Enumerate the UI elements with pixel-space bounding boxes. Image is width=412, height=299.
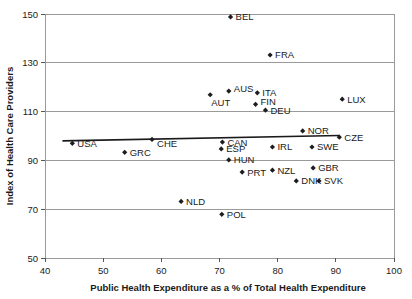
point-marker xyxy=(149,137,154,142)
point-label: CZE xyxy=(344,132,363,143)
data-point: NLD xyxy=(179,196,206,207)
x-tick-label: 100 xyxy=(386,265,402,276)
point-marker xyxy=(219,212,224,217)
x-tick-label: 70 xyxy=(214,265,225,276)
point-label: GRC xyxy=(130,147,151,158)
x-tick-label: 50 xyxy=(98,265,109,276)
y-tick-label: 150 xyxy=(22,9,38,20)
data-points: USAGRCCHENLDAUTESPCANPOLHUNAUSBELPRTFINI… xyxy=(70,11,367,219)
point-marker xyxy=(220,140,225,145)
point-marker xyxy=(311,165,316,170)
y-tick-label: 110 xyxy=(23,106,38,117)
point-marker xyxy=(340,97,345,102)
point-marker xyxy=(268,52,273,57)
point-label: DEU xyxy=(270,105,290,116)
x-tick-label: 60 xyxy=(156,265,167,276)
point-label: GBR xyxy=(318,162,339,173)
point-label: NZL xyxy=(277,165,295,176)
y-tick-label: 130 xyxy=(22,57,38,68)
scatter-chart: 507090110130150 405060708090100 USAGRCCH… xyxy=(0,0,412,299)
point-label: NLD xyxy=(186,196,205,207)
x-axis-tick-labels: 405060708090100 xyxy=(40,265,402,276)
x-tick-label: 90 xyxy=(331,265,342,276)
data-point: USA xyxy=(70,138,98,149)
x-axis-title: Public Health Expenditure as a % of Tota… xyxy=(90,282,365,293)
data-point: IRL xyxy=(270,141,292,152)
point-marker xyxy=(240,170,245,175)
data-point: GBR xyxy=(311,162,339,173)
trend-line xyxy=(62,136,339,141)
y-axis-title: Index of Health Care Providers xyxy=(4,67,15,205)
data-point: NOR xyxy=(300,125,329,136)
point-label: CHE xyxy=(157,138,177,149)
point-marker xyxy=(270,144,275,149)
point-label: IRL xyxy=(277,141,292,152)
data-point: FRA xyxy=(268,49,295,60)
point-label: HUN xyxy=(234,154,255,165)
point-label: PRT xyxy=(247,167,266,178)
point-label: AUT xyxy=(211,97,230,108)
data-point: SWE xyxy=(309,141,338,152)
data-point: LUX xyxy=(340,94,367,105)
data-point: POL xyxy=(219,209,246,220)
point-marker xyxy=(122,150,127,155)
y-axis-tick-labels: 507090110130150 xyxy=(22,9,38,264)
point-label: BEL xyxy=(236,11,254,22)
point-marker xyxy=(226,157,231,162)
point-label: AUS xyxy=(234,83,254,94)
point-label: ITA xyxy=(262,87,277,98)
data-point: AUT xyxy=(208,92,231,108)
point-label: POL xyxy=(227,209,246,220)
point-marker xyxy=(179,199,184,204)
data-point: HUN xyxy=(226,154,254,165)
data-point: CZE xyxy=(337,132,364,143)
data-point: NZL xyxy=(270,165,296,176)
point-marker xyxy=(253,102,258,107)
point-label: NOR xyxy=(308,125,329,136)
point-marker xyxy=(309,144,314,149)
point-marker xyxy=(300,128,305,133)
x-tick-label: 40 xyxy=(40,265,51,276)
point-marker xyxy=(255,90,260,95)
data-point: BEL xyxy=(228,11,254,22)
point-label: SWE xyxy=(317,141,339,152)
chart-canvas: 507090110130150 405060708090100 USAGRCCH… xyxy=(0,0,412,299)
trend-line-segment xyxy=(62,136,339,141)
point-label: SVK xyxy=(324,175,344,186)
x-tick-label: 80 xyxy=(272,265,283,276)
data-point: CHE xyxy=(149,137,177,150)
data-point: PRT xyxy=(240,167,267,178)
point-marker xyxy=(294,178,299,183)
y-tick-label: 50 xyxy=(27,253,38,264)
data-point: ITA xyxy=(255,87,277,98)
point-marker xyxy=(270,168,275,173)
point-marker xyxy=(228,14,233,19)
plot-frame xyxy=(45,14,394,258)
point-marker xyxy=(226,89,231,94)
data-point: GRC xyxy=(122,147,151,158)
point-label: FRA xyxy=(275,49,295,60)
point-label: CAN xyxy=(227,137,247,148)
data-point: AUS xyxy=(226,83,253,94)
y-tick-label: 70 xyxy=(27,204,38,215)
point-marker xyxy=(219,146,224,151)
point-label: LUX xyxy=(347,94,366,105)
point-label: USA xyxy=(77,138,97,149)
y-tick-label: 90 xyxy=(27,155,38,166)
